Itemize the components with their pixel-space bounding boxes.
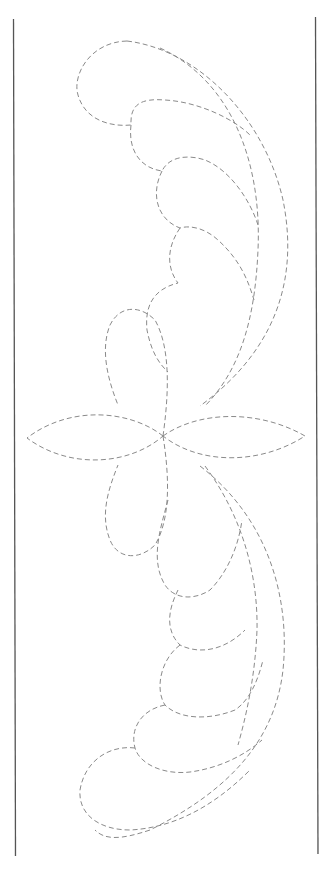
feather-3 bbox=[156, 171, 254, 300]
feather-1 bbox=[77, 41, 250, 135]
flower bbox=[27, 309, 305, 555]
feather-9 bbox=[80, 748, 250, 830]
right-border-line bbox=[316, 17, 319, 854]
quilting-stencil-pattern bbox=[0, 0, 333, 871]
spine-lower-inner bbox=[205, 466, 257, 745]
petal-left bbox=[27, 415, 163, 460]
left-border-line bbox=[14, 19, 16, 856]
feather-6 bbox=[170, 590, 245, 650]
upper-feather bbox=[77, 41, 288, 406]
petal-down bbox=[105, 436, 167, 556]
petal-up bbox=[105, 309, 167, 436]
feather-5 bbox=[157, 500, 242, 597]
feather-4 bbox=[147, 228, 180, 372]
feather-2 bbox=[131, 125, 258, 225]
spine-upper-inner bbox=[160, 48, 258, 406]
petal-right bbox=[163, 417, 305, 458]
lower-feather bbox=[80, 466, 284, 838]
spine-upper-outer bbox=[127, 41, 288, 406]
